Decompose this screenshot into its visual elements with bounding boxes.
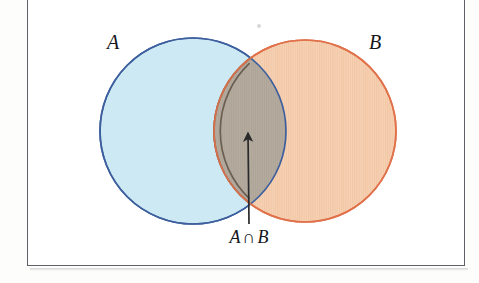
intersection-operator-icon: ∩ bbox=[241, 227, 258, 247]
scan-speck bbox=[257, 24, 261, 28]
venn-diagram-figure: A B A∩B bbox=[0, 0, 479, 283]
set-b-label: B bbox=[369, 32, 382, 52]
intersection-label-right: B bbox=[258, 227, 269, 247]
intersection-label-left: A bbox=[230, 227, 241, 247]
set-a-label: A bbox=[107, 32, 120, 52]
intersection-arrow bbox=[248, 133, 249, 224]
intersection-label: A∩B bbox=[207, 228, 291, 246]
